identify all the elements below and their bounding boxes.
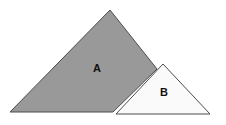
- figure-svg: A B: [0, 0, 226, 125]
- shape-b-label: B: [160, 86, 168, 98]
- figure-canvas: A B: [0, 0, 226, 125]
- shape-a-label: A: [93, 62, 101, 74]
